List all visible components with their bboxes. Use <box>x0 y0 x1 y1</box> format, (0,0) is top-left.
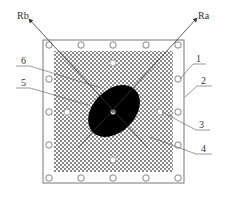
label-rb: Rb <box>17 10 29 21</box>
label-2: 2 <box>201 75 206 86</box>
label-3: 3 <box>199 119 204 130</box>
label-5: 5 <box>21 77 26 88</box>
label-ra: Ra <box>198 10 210 21</box>
label-1: 1 <box>196 53 201 64</box>
label-6: 6 <box>21 55 26 66</box>
diagram-canvas: Rb Ra 1 2 3 4 5 6 <box>0 0 226 204</box>
label-4: 4 <box>201 143 206 154</box>
center-dot <box>112 111 114 113</box>
